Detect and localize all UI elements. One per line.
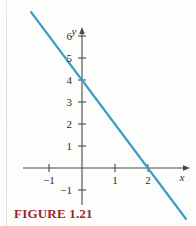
- y-axis: [79, 27, 85, 205]
- y-tick-label-1: 1: [67, 140, 73, 152]
- graph-plot: −1 1 2 6 5 4 3 2 1 −1 x y: [0, 0, 196, 226]
- figure-caption: FIGURE 1.21: [14, 206, 93, 222]
- y-tick-label-3: 3: [67, 96, 73, 108]
- x-axis-arrowhead: [183, 165, 190, 171]
- x-tick-label--1: −1: [43, 174, 55, 186]
- figure-container: −1 1 2 6 5 4 3 2 1 −1 x y FIGURE 1.21: [0, 0, 196, 226]
- x-axis: [23, 165, 190, 171]
- x-tick-label-1: 1: [112, 174, 118, 186]
- y-tick-label-2: 2: [67, 118, 73, 130]
- y-axis-arrowhead: [79, 27, 85, 34]
- y-tick-label-4: 4: [67, 74, 73, 86]
- y-axis-label: y: [71, 25, 77, 37]
- y-tick-label-5: 5: [67, 52, 73, 64]
- x-tick-label-2: 2: [145, 174, 151, 186]
- y-tick-label--1: −1: [60, 184, 72, 196]
- line-graph: [31, 12, 186, 219]
- x-axis-label: x: [179, 171, 185, 183]
